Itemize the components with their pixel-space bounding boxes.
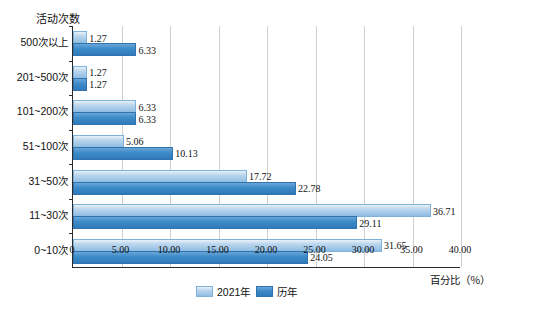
x-tick-label: 0 — [70, 244, 75, 255]
legend-item-series-1: 历年 — [256, 284, 297, 299]
x-axis-title: 百分比（％） — [430, 272, 490, 287]
bar-value-label: 1.27 — [89, 79, 107, 90]
x-tick-label: 10.00 — [158, 244, 181, 255]
legend-label-2021: 2021年 — [217, 284, 250, 299]
y-axis-tick — [69, 130, 73, 131]
category-row: 31~50次17.7222.78 — [73, 164, 460, 199]
x-tick-label: 35.00 — [400, 244, 423, 255]
bar-value-label: 17.72 — [249, 171, 272, 182]
bar-value-label: 6.33 — [138, 101, 156, 112]
bar-value-label: 5.06 — [126, 136, 144, 147]
bar-value-label: 29.11 — [359, 217, 381, 228]
legend-label-history: 历年 — [277, 284, 297, 299]
bar-value-label: 6.33 — [138, 44, 156, 55]
bar-value-label: 1.27 — [89, 67, 107, 78]
category-label: 201~500次 — [17, 72, 68, 83]
x-tick-label: 40.00 — [449, 244, 472, 255]
bar-value-label: 22.78 — [298, 183, 321, 194]
y-axis-tick — [69, 26, 73, 27]
x-tick-label: 30.00 — [352, 244, 375, 255]
y-axis-tick — [69, 199, 73, 200]
legend-item-series-0: 2021年 — [196, 284, 250, 299]
category-row: 51~100次5.0610.13 — [73, 130, 460, 165]
y-axis-tick — [69, 61, 73, 62]
legend: 2021年 历年 — [196, 284, 297, 299]
category-row: 11~30次36.7129.11 — [73, 199, 460, 234]
bar-1: 6.33 — [73, 112, 136, 125]
bar-1: 22.78 — [73, 182, 296, 195]
bar-1: 10.13 — [73, 147, 173, 160]
x-tick-label: 5.00 — [112, 244, 130, 255]
x-tick-label: 25.00 — [303, 244, 326, 255]
category-label: 31~50次 — [29, 176, 69, 187]
category-label: 101~200次 — [17, 106, 68, 117]
bar-1: 29.11 — [73, 216, 357, 229]
category-label: 11~30次 — [29, 210, 68, 221]
bar-1: 1.27 — [73, 78, 87, 91]
plot-area: 0~10次31.6524.0511~30次36.7129.1131~50次17.… — [72, 26, 460, 268]
y-axis-title: 活动次数 — [36, 10, 80, 26]
y-axis-tick — [69, 233, 73, 234]
x-tick-label: 15.00 — [206, 244, 229, 255]
legend-swatch-history — [256, 286, 273, 297]
bar-value-label: 6.33 — [138, 113, 156, 124]
x-tick-label: 20.00 — [255, 244, 278, 255]
category-row: 201~500次1.271.27 — [73, 61, 460, 96]
bar-value-label: 36.71 — [433, 205, 456, 216]
bar-value-label: 10.13 — [175, 148, 198, 159]
category-label: 51~100次 — [23, 141, 68, 152]
y-axis-tick — [69, 95, 73, 96]
bar-chart: 活动次数 0~10次31.6524.0511~30次36.7129.1131~5… — [0, 0, 544, 318]
category-label: 0~10次 — [34, 245, 68, 256]
category-row: 101~200次6.336.33 — [73, 95, 460, 130]
y-axis-tick — [69, 164, 73, 165]
legend-swatch-2021 — [196, 286, 213, 297]
bar-value-label: 1.27 — [89, 32, 107, 43]
gridline — [461, 26, 462, 267]
bar-1: 6.33 — [73, 43, 136, 56]
category-row: 500次以上1.276.33 — [73, 26, 460, 61]
category-label: 500次以上 — [20, 37, 68, 48]
